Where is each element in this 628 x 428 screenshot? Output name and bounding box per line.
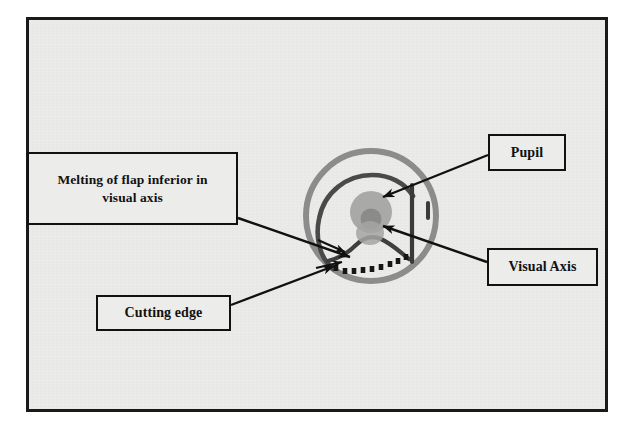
figure-root: Melting of flap inferior in visual axis … <box>0 0 628 428</box>
leader-melting-of-flap <box>238 218 350 257</box>
callout-visual-axis-label: Visual Axis <box>503 258 583 276</box>
leader-cutting-edge <box>231 266 334 305</box>
leader-pupil <box>383 155 488 197</box>
callout-cutting-edge-label: Cutting edge <box>119 304 209 322</box>
callout-melting-of-flap[interactable]: Melting of flap inferior in visual axis <box>27 152 238 225</box>
flap-melt-zone <box>356 221 384 245</box>
callout-pupil-label: Pupil <box>505 144 549 162</box>
callout-pupil[interactable]: Pupil <box>488 134 566 171</box>
callout-cutting-edge[interactable]: Cutting edge <box>96 295 231 331</box>
eye-globe-group <box>306 151 436 281</box>
callout-melting-of-flap-label: Melting of flap inferior in visual axis <box>51 171 213 206</box>
callout-visual-axis[interactable]: Visual Axis <box>487 248 598 286</box>
